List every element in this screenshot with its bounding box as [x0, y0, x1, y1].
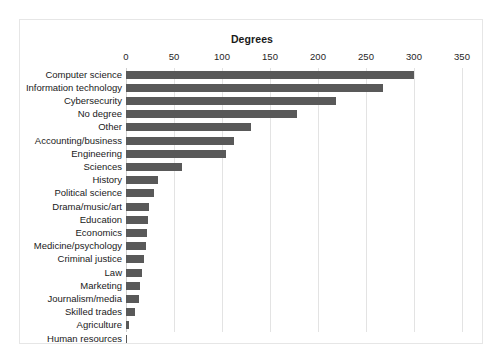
- category-label: Skilled trades: [65, 305, 122, 318]
- bar: [126, 269, 142, 277]
- x-tick-label-150: 150: [262, 51, 278, 62]
- category-label: Medicine/psychology: [34, 239, 122, 252]
- bar-row: Engineering: [126, 147, 462, 160]
- category-label: Political science: [54, 186, 122, 199]
- bar: [126, 308, 135, 316]
- bar: [126, 321, 129, 329]
- bar: [126, 97, 336, 105]
- x-tick-label-300: 300: [406, 51, 422, 62]
- bar: [126, 203, 149, 211]
- chart-title: Degrees: [20, 33, 484, 45]
- bar: [126, 176, 158, 184]
- bar-row: Education: [126, 213, 462, 226]
- bar: [126, 242, 146, 250]
- bar-row: Sciences: [126, 160, 462, 173]
- x-tick-label-350: 350: [454, 51, 470, 62]
- category-label: Human resources: [47, 332, 122, 345]
- chart-panel: Degrees 050100150200250300350 Computer s…: [19, 19, 483, 344]
- bar-row: Political science: [126, 187, 462, 200]
- x-tick-label-50: 50: [169, 51, 180, 62]
- category-label: Marketing: [80, 279, 122, 292]
- x-tick-label-100: 100: [214, 51, 230, 62]
- bar-row: Criminal justice: [126, 253, 462, 266]
- bar-row: Drama/music/art: [126, 200, 462, 213]
- bar-row: Computer science: [126, 68, 462, 81]
- bar-row: Human resources: [126, 332, 462, 345]
- category-label: Journalism/media: [48, 292, 122, 305]
- bar: [126, 163, 182, 171]
- bar-row: Other: [126, 121, 462, 134]
- category-label: Information technology: [26, 81, 122, 94]
- category-label: Economics: [76, 226, 122, 239]
- bar: [126, 189, 154, 197]
- bar: [126, 255, 144, 263]
- bar: [126, 137, 234, 145]
- bar: [126, 84, 383, 92]
- category-label: Engineering: [71, 147, 122, 160]
- category-label: Computer science: [45, 68, 122, 81]
- bar-row: Law: [126, 266, 462, 279]
- category-label: Law: [105, 266, 122, 279]
- category-label: Accounting/business: [35, 134, 122, 147]
- bar-row: Cybersecurity: [126, 94, 462, 107]
- bar-row: Journalism/media: [126, 292, 462, 305]
- bar-row: No degree: [126, 108, 462, 121]
- category-label: Cybersecurity: [64, 94, 122, 107]
- category-label: No degree: [78, 107, 122, 120]
- bar-row: Medicine/psychology: [126, 240, 462, 253]
- bar-row: Economics: [126, 226, 462, 239]
- category-label: Education: [80, 213, 122, 226]
- category-label: Other: [98, 120, 122, 133]
- x-tick-label-200: 200: [310, 51, 326, 62]
- bar: [126, 335, 127, 343]
- category-label: Criminal justice: [58, 252, 122, 265]
- x-tick-label-250: 250: [358, 51, 374, 62]
- bar: [126, 71, 414, 79]
- bar: [126, 123, 251, 131]
- bar-row: Information technology: [126, 81, 462, 94]
- x-tick-label-0: 0: [123, 51, 128, 62]
- bar-row: Accounting/business: [126, 134, 462, 147]
- category-label: Drama/music/art: [52, 200, 122, 213]
- bar-row: History: [126, 174, 462, 187]
- bar: [126, 295, 139, 303]
- bar: [126, 282, 140, 290]
- category-label: Agriculture: [77, 318, 122, 331]
- gridline-350: [462, 68, 463, 332]
- bar: [126, 216, 148, 224]
- plot-area: 050100150200250300350 Computer scienceIn…: [126, 68, 462, 332]
- bar: [126, 150, 226, 158]
- category-label: Sciences: [83, 160, 122, 173]
- bar: [126, 110, 297, 118]
- bar: [126, 229, 147, 237]
- category-label: History: [92, 173, 122, 186]
- bar-row: Agriculture: [126, 319, 462, 332]
- bar-row: Skilled trades: [126, 306, 462, 319]
- bar-row: Marketing: [126, 279, 462, 292]
